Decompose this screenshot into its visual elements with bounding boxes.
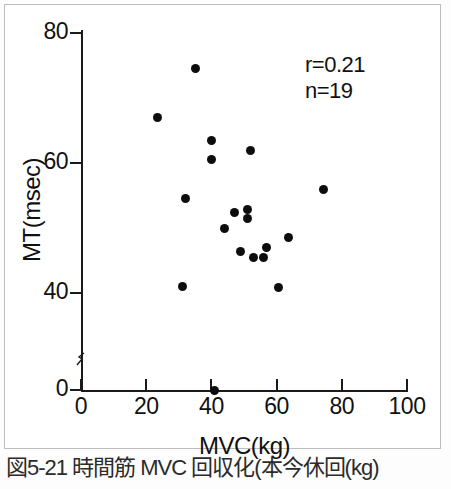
- scatter-plot: 0406080 020406080100 MT(msec) MVC(kg) r=…: [0, 0, 451, 489]
- figure-container: 0406080 020406080100 MT(msec) MVC(kg) r=…: [0, 0, 451, 489]
- data-point: [181, 194, 190, 203]
- x-tick-label-40: 40: [181, 395, 241, 418]
- statistics-annotation: r=0.21 n=19: [305, 52, 365, 104]
- sample-size-value: n=19: [305, 78, 365, 104]
- x-tick-20: [145, 379, 147, 390]
- x-tick-label-20: 20: [116, 395, 176, 418]
- correlation-value: r=0.21: [305, 52, 365, 78]
- x-axis-line: [81, 390, 408, 392]
- data-point: [210, 386, 219, 395]
- data-point: [284, 233, 293, 242]
- figure-caption: 図5-21 時間筋 MVC 回収化(本今休回(kg): [6, 455, 451, 481]
- data-point: [236, 247, 245, 256]
- data-point: [178, 282, 187, 291]
- y-tick-40: [70, 292, 81, 294]
- data-point: [319, 185, 328, 194]
- axis-break-icon: [74, 352, 90, 370]
- x-tick-100: [406, 379, 408, 390]
- data-point: [207, 136, 216, 145]
- data-point: [249, 253, 258, 262]
- data-point: [243, 205, 252, 214]
- data-point: [262, 243, 271, 252]
- data-point: [274, 283, 283, 292]
- x-tick-0: [80, 379, 82, 390]
- data-point: [207, 155, 216, 164]
- x-tick-label-80: 80: [312, 395, 372, 418]
- x-tick-80: [341, 379, 343, 390]
- x-tick-60: [276, 379, 278, 390]
- data-point: [191, 64, 200, 73]
- data-point: [259, 253, 268, 262]
- x-tick-label-100: 100: [377, 395, 437, 418]
- data-point: [220, 224, 229, 233]
- data-point: [230, 208, 239, 217]
- y-tick-label-80: 80: [43, 20, 68, 43]
- x-tick-label-60: 60: [247, 395, 307, 418]
- data-point: [246, 146, 255, 155]
- data-point: [243, 214, 252, 223]
- y-tick-label-40: 40: [43, 280, 68, 303]
- y-axis-line: [81, 30, 83, 392]
- y-tick-80: [70, 32, 81, 34]
- y-tick-60: [70, 162, 81, 164]
- y-tick-label-60: 60: [43, 150, 68, 173]
- y-axis-title: MT(msec): [18, 110, 46, 310]
- data-point: [153, 113, 162, 122]
- x-tick-label-0: 0: [51, 395, 111, 418]
